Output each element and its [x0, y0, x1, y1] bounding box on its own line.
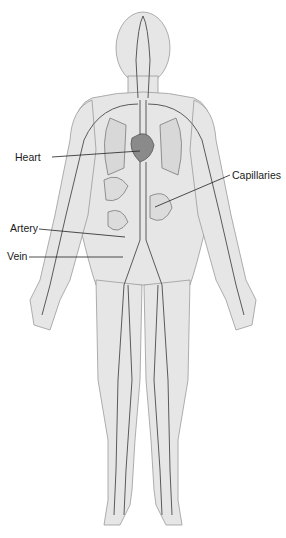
circulatory-system-diagram	[0, 0, 286, 538]
right-lung	[160, 118, 182, 175]
artery-label: Artery	[10, 222, 38, 234]
right-leg	[144, 280, 190, 525]
head	[116, 12, 170, 84]
body-silhouette	[30, 12, 256, 525]
left-lung	[104, 118, 126, 175]
torso	[74, 92, 212, 285]
heart-label: Heart	[15, 151, 41, 163]
capillaries-label: Capillaries	[232, 169, 281, 181]
left-leg	[96, 280, 142, 525]
left-arm	[30, 100, 96, 330]
right-arm	[190, 100, 256, 330]
vein-label: Vein	[7, 250, 27, 262]
